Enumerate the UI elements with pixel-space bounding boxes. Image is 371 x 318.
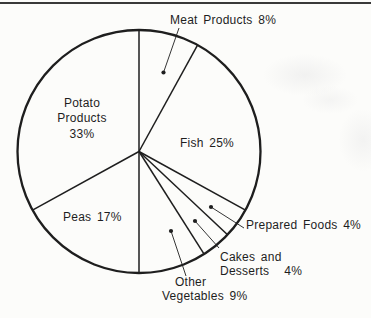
label-potato-percent: 33%: [37, 127, 127, 142]
label-other-line2: Vegetables 9%: [162, 290, 247, 304]
slice-boundary-potato-products: [33, 152, 139, 211]
label-potato-line1: Potato: [37, 96, 127, 111]
pie-chart: [0, 0, 371, 318]
callout-dot: [209, 205, 213, 209]
label-meat-products: Meat Products 8%: [170, 14, 276, 26]
callout-leader-line: [195, 221, 219, 248]
label-fish: Fish 25%: [180, 137, 234, 149]
label-other-line1: Other: [162, 276, 247, 290]
pie-chart-figure: Meat Products 8% Potato Products 33% Fis…: [0, 0, 371, 318]
label-potato-line2: Products: [37, 111, 127, 126]
callout-dot: [161, 70, 165, 74]
label-potato-products: Potato Products 33%: [37, 96, 127, 142]
label-other-vegetables: Other Vegetables 9%: [162, 276, 247, 303]
callout-dot: [169, 229, 173, 233]
label-cakes-and-desserts: Cakes and Desserts 4%: [220, 250, 302, 278]
label-cakes-line1: Cakes and: [220, 250, 302, 264]
label-cakes-percent: 4%: [284, 264, 302, 278]
callout-leader-line: [211, 207, 244, 228]
label-peas: Peas 17%: [63, 211, 122, 223]
callout-dot: [193, 219, 197, 223]
label-prepared-foods: Prepared Foods 4%: [246, 219, 361, 231]
